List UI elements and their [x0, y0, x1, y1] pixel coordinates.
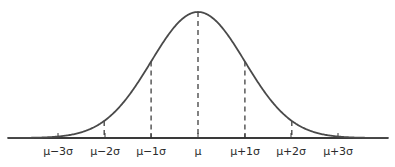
x-axis-tick-label: μ−2σ [90, 146, 119, 157]
normal-distribution-figure: μ−3σμ−2σμ−1σμμ+1σμ+2σμ+3σ [0, 0, 395, 167]
x-axis-tick-label: μ+3σ [323, 146, 352, 157]
x-axis-tick-label: μ [195, 146, 202, 157]
x-axis-tick-label: μ−1σ [136, 146, 165, 157]
bell-curve-plot [0, 0, 395, 167]
x-axis-tick-label: μ+2σ [276, 146, 305, 157]
x-axis-tick-label: μ+1σ [230, 146, 259, 157]
dashed-drop-lines-group [104, 12, 292, 138]
x-axis-tick-label: μ−3σ [43, 146, 72, 157]
